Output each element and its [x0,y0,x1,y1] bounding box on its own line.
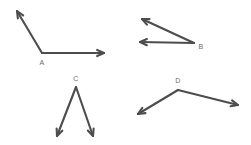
ray-c-lower-left [57,87,76,136]
arrowheads-group [17,11,238,136]
ray-b-upper-left [142,19,194,43]
rays-group [17,11,238,136]
ray-d-lower-left [138,90,178,114]
angles-figure-canvas: ABCD [0,0,251,145]
ray-b-left [140,42,194,43]
vertex-label-b: B [199,43,204,50]
ray-c-lower-right [76,87,93,136]
ray-a-upper-left [17,11,42,53]
vertex-label-c: C [73,75,78,82]
ray-d-lower-right [178,90,238,105]
angles-diagram [0,0,251,145]
vertex-label-d: D [175,77,180,84]
vertex-label-a: A [40,59,45,66]
